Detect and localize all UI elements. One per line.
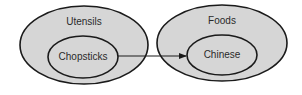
foods-label: Foods xyxy=(208,15,236,26)
utensils-set: Utensils Chopsticks xyxy=(20,6,148,84)
foods-set: Foods Chinese xyxy=(157,5,287,81)
utensils-label: Utensils xyxy=(66,16,102,27)
chopsticks-label: Chopsticks xyxy=(59,51,108,62)
chinese-label: Chinese xyxy=(204,49,241,60)
diagram-canvas: Utensils Chopsticks Foods Chinese xyxy=(0,0,302,95)
